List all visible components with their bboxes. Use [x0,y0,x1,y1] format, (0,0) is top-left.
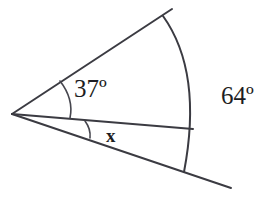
lower-ray [12,114,231,188]
geometry-figure: 37º 64º x [0,0,262,197]
angle-label-37: 37º [74,76,107,101]
angle-arc-37 [60,81,71,118]
angle-label-64: 64º [221,83,254,108]
outer-arc [163,16,190,172]
angle-arc-x [85,121,90,138]
angle-label-x: x [106,126,116,145]
middle-ray [12,114,193,129]
